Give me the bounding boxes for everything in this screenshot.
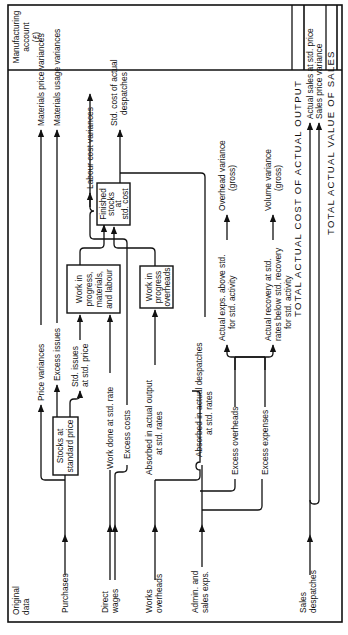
svg-text:rates below std. recovery: rates below std. recovery (273, 247, 283, 341)
actual-recovery-arrow (269, 345, 273, 357)
sales-despatches-flow (310, 135, 319, 575)
flow-absorbed-despatches: Absorbed in actual despatches at std. ra… (194, 342, 214, 457)
output-volume-variance: Volume variance (gross) (263, 149, 283, 211)
flow-absorbed-output: Absorbed in actual output at std. rates (144, 379, 164, 475)
svg-text:Overhead variance: Overhead variance (217, 140, 227, 211)
input-purchases: Purchases (60, 573, 70, 613)
svg-text:Work in: Work in (74, 275, 84, 304)
wip-ml-to-finished (80, 225, 104, 265)
output-overhead-variance: Overhead variance (gross) (217, 140, 237, 211)
flow-excess-issues: Excess issues (52, 328, 62, 381)
admin-sales-flow (202, 485, 262, 567)
box-wip-materials-labour: Work in progress, materials, and labour (67, 265, 120, 313)
actual-exps-arrow (227, 345, 231, 357)
svg-text:(gross): (gross) (227, 165, 237, 191)
input-admin-sales: Admin. and sales exps. (190, 570, 210, 613)
svg-text:Stocks at: Stocks at (55, 428, 65, 463)
flow-actual-recovery: Actual recovery at std. rates below std.… (263, 247, 293, 341)
svg-text:account: account (21, 22, 31, 52)
svg-text:and labour: and labour (104, 269, 114, 309)
flow-std-issues: Std. issues at std. price (70, 343, 90, 387)
std-issues-arrow (70, 391, 80, 417)
direct-wages-flow (110, 465, 127, 580)
output-materials-price: Materials price variances (36, 33, 46, 126)
svg-text:despatches: despatches (308, 570, 318, 613)
svg-text:Direct: Direct (100, 590, 110, 613)
output-total-cost: TOTAL ACTUAL COST OF ACTUAL OUTPUT (292, 80, 303, 317)
box-stocks-at-standard-price: Stocks at standard price (53, 417, 78, 475)
box-finished-stocks: Finished stocks at std. cost (97, 183, 130, 225)
flow-excess-costs: Excess costs (122, 410, 132, 459)
svg-text:Std. issues: Std. issues (70, 346, 80, 387)
box-wip-overheads: Work in progress overheads (140, 266, 173, 308)
svg-text:Works: Works (144, 589, 154, 613)
excess-overheads-stub (200, 479, 235, 491)
flow-excess-expenses: Excess expenses (260, 410, 270, 475)
svg-text:at std. price: at std. price (80, 343, 90, 387)
diagram-stage: Original data Manufacturing account (£) … (0, 0, 348, 635)
svg-text:Absorbed in actual output: Absorbed in actual output (144, 379, 154, 475)
output-materials-usage: Materials usage variances (52, 29, 62, 126)
svg-text:Sales: Sales (298, 592, 308, 613)
input-works-overheads: Works overheads (144, 574, 164, 613)
flow-diagram: Original data Manufacturing account (£) … (0, 0, 348, 635)
flow-work-done: Work done at std. rate (105, 386, 115, 469)
flow-actual-exps-above: Actual exps. above std. for std. activit… (217, 254, 237, 341)
output-labour-cost-label: Labour cost variances (85, 107, 95, 189)
wip-oh-to-finished (114, 227, 155, 266)
svg-text:despatches: despatches (119, 72, 129, 115)
header-original-data: Original data (11, 586, 31, 615)
svg-text:wages: wages (110, 589, 120, 614)
excess-costs-line (90, 95, 127, 405)
svg-text:materials,: materials, (94, 271, 104, 307)
svg-text:Actual exps. above std.: Actual exps. above std. (217, 254, 227, 341)
svg-text:Volume variance: Volume variance (263, 149, 273, 211)
svg-text:Original: Original (11, 586, 21, 615)
svg-text:overheads: overheads (162, 267, 172, 306)
svg-text:Manufacturing: Manufacturing (11, 10, 21, 63)
flow-excess-overheads: Excess overheads (230, 407, 240, 475)
svg-text:std. cost: std. cost (120, 188, 130, 220)
svg-text:(gross): (gross) (273, 165, 283, 191)
svg-text:progress,: progress, (84, 272, 94, 307)
svg-text:at std. rates: at std. rates (154, 411, 164, 455)
flow-price-variances: Price variances (36, 344, 46, 401)
svg-text:sales exps.: sales exps. (200, 571, 210, 613)
svg-text:for std. activity: for std. activity (227, 275, 237, 329)
input-direct-wages: Direct wages (100, 589, 120, 614)
svg-text:Absorbed in actual despatches: Absorbed in actual despatches (194, 342, 204, 457)
svg-text:Std. cost of actual: Std. cost of actual (109, 59, 119, 126)
output-total-sales: TOTAL ACTUAL VALUE OF SALES (325, 50, 336, 235)
svg-text:Admin. and: Admin. and (190, 570, 200, 613)
finished-to-despatch-line (120, 173, 205, 235)
output-sales-price-variance: Sales price variance (314, 43, 324, 119)
svg-text:data: data (21, 598, 31, 615)
input-sales-despatches: Sales despatches (298, 570, 318, 613)
svg-text:Actual recovery at std.: Actual recovery at std. (263, 258, 273, 341)
svg-text:standard price: standard price (65, 419, 75, 472)
svg-text:at std. rates: at std. rates (204, 391, 214, 435)
